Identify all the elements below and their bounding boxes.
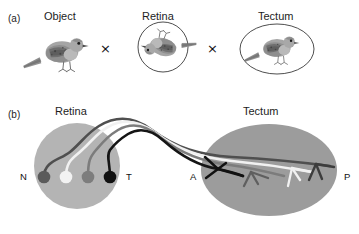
- panel-a-tectum-bird: [245, 36, 300, 64]
- retina-axis-label-temporal: T: [126, 172, 132, 182]
- panel-a-retina-bird: [139, 26, 198, 67]
- panel-b-label-retina: Retina: [55, 106, 87, 117]
- ganglion-cell-white: [60, 171, 73, 184]
- tectum-axis-label-posterior: P: [344, 172, 350, 182]
- panel-a-object-bird: [23, 38, 88, 72]
- panel-b-id: (b): [8, 110, 20, 120]
- ganglion-cell-dark-gray: [38, 171, 51, 184]
- ganglion-cell-black: [104, 171, 117, 184]
- ganglion-cell-mid-gray: [82, 171, 95, 184]
- tectum-axis-label-anterior: A: [190, 172, 196, 182]
- figure-retinotectal-map: (a) Object Retina Tectum × ×: [0, 0, 359, 234]
- retina-axis-label-nasal: N: [20, 172, 27, 182]
- panel-b-label-tectum: Tectum: [243, 106, 278, 117]
